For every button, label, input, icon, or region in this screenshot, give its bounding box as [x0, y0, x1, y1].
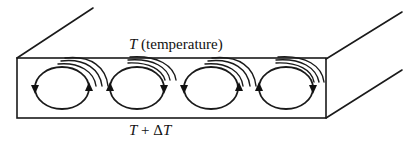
streamlines	[205, 58, 256, 86]
bottom-surface-label: T + ΔT	[129, 122, 173, 138]
bottom-right-edge	[326, 70, 402, 118]
arrow-down-icon	[180, 85, 188, 94]
convection-cell-4	[255, 57, 324, 109]
arrow-down-icon	[160, 85, 168, 94]
convection-cells-diagram: T (temperature) T + ΔT	[0, 0, 416, 141]
top-surface-label: T (temperature)	[129, 36, 223, 53]
arrow-up-icon	[85, 82, 93, 91]
streamlines	[128, 57, 176, 80]
top-right-edge	[326, 12, 402, 59]
convection-cell-1	[31, 58, 108, 109]
arrow-down-icon	[309, 85, 317, 94]
arrow-down-icon	[31, 85, 39, 94]
streamlines	[58, 58, 108, 86]
slab-outline	[17, 8, 402, 118]
convection-cell-3	[180, 58, 256, 109]
top-left-edge	[17, 8, 93, 58]
convection-cell-2	[106, 57, 176, 109]
